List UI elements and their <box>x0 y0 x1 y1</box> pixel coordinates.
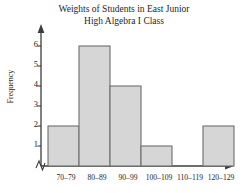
bar-series <box>48 46 234 166</box>
bar-100-109 <box>141 146 172 166</box>
bar-90-99 <box>110 86 141 166</box>
bar-120-129 <box>203 126 234 166</box>
y-axis-arrow <box>38 24 45 33</box>
chart-plot-area <box>0 0 248 193</box>
bar-80-89 <box>79 46 110 166</box>
chart-page: Weights of Students in East Junior High … <box>0 0 248 193</box>
bar-70-79 <box>48 126 79 166</box>
